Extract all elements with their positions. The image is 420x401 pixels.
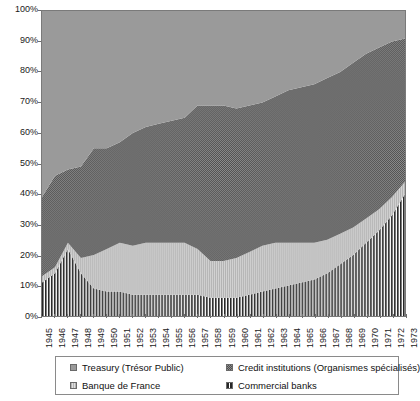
plot-area [41,10,406,317]
x-tick-label: 1953 [149,318,158,348]
x-tick-mark [289,314,290,318]
x-tick-mark [250,314,251,318]
x-tick-label: 1952 [136,318,145,348]
legend-item-commercial-banks: Commercial banks [226,377,317,394]
x-tick-mark [54,314,55,318]
x-tick-label: 1965 [306,318,315,348]
x-tick-mark [380,314,381,318]
chart-legend: Treasury (Trésor Public) Credit institut… [55,356,399,395]
x-tick-label: 1951 [123,318,132,348]
x-tick-label: 1964 [293,318,302,348]
x-tick-label: 1949 [97,318,106,348]
x-tick-mark [354,314,355,318]
x-tick-label: 1966 [319,318,328,348]
x-tick-mark [276,314,277,318]
x-tick-label: 1961 [254,318,263,348]
x-tick-label: 1954 [162,318,171,348]
x-tick-mark [41,314,42,318]
x-tick-mark [132,314,133,318]
legend-row-1: Treasury (Trésor Public) Credit institut… [56,359,398,376]
x-tick-label: 1955 [175,318,184,348]
y-tick-label: 100% [2,5,38,14]
x-tick-label: 1970 [371,318,380,348]
x-tick-label: 1948 [84,318,93,348]
legend-item-treasury: Treasury (Trésor Public) [70,359,184,376]
x-tick-label: 1962 [267,318,276,348]
y-axis: 0%10%20%30%40%50%60%70%80%90%100% [0,0,38,327]
x-tick-mark [367,314,368,318]
legend-row-2: Banque de France Commercial banks [56,377,398,394]
legend-label-treasury: Treasury (Trésor Public) [82,362,184,373]
legend-label-commercial-banks: Commercial banks [238,380,317,391]
y-tick-label: 60% [2,128,38,137]
x-tick-label: 1950 [110,318,119,348]
x-tick-label: 1959 [228,318,237,348]
y-tick-label: 0% [2,312,38,321]
y-tick-label: 50% [2,159,38,168]
x-tick-label: 1972 [397,318,406,348]
x-tick-mark [184,314,185,318]
x-tick-mark [171,314,172,318]
legend-swatch-banque-de-france [70,382,77,389]
x-tick-label: 1967 [332,318,341,348]
x-tick-mark [80,314,81,318]
legend-label-credit-institutions: Credit institutions (Organismes spéciali… [238,362,420,373]
y-tick-label: 70% [2,97,38,106]
x-axis: 1945194619471948194919501951195219531954… [41,318,407,352]
x-tick-mark [237,314,238,318]
x-tick-mark [145,314,146,318]
x-tick-mark [302,314,303,318]
x-tick-label: 1945 [45,318,54,348]
y-tick-label: 20% [2,251,38,260]
x-tick-label: 1969 [358,318,367,348]
legend-item-banque-de-france: Banque de France [70,377,160,394]
x-tick-mark [67,314,68,318]
x-tick-label: 1947 [71,318,80,348]
legend-swatch-treasury [70,364,77,371]
x-tick-mark [263,314,264,318]
legend-item-credit-institutions: Credit institutions (Organismes spéciali… [226,359,420,376]
y-tick-label: 80% [2,66,38,75]
x-tick-mark [224,314,225,318]
x-tick-label: 1958 [214,318,223,348]
y-tick-label: 40% [2,189,38,198]
x-tick-label: 1946 [58,318,67,348]
x-tick-mark [328,314,329,318]
legend-swatch-credit-institutions [226,364,233,371]
x-tick-mark [93,314,94,318]
x-tick-label: 1971 [384,318,393,348]
x-tick-mark [393,314,394,318]
x-tick-mark [106,314,107,318]
x-tick-mark [315,314,316,318]
x-tick-label: 1956 [188,318,197,348]
y-tick-label: 10% [2,281,38,290]
x-tick-label: 1973 [410,318,419,348]
x-tick-mark [197,314,198,318]
y-tick-label: 30% [2,220,38,229]
x-tick-label: 1960 [241,318,250,348]
x-tick-mark [119,314,120,318]
x-tick-mark [158,314,159,318]
stacked-area-svg [42,11,405,316]
x-tick-mark [406,314,407,318]
x-tick-mark [210,314,211,318]
y-tick-label: 90% [2,36,38,45]
x-tick-label: 1957 [201,318,210,348]
x-tick-label: 1968 [345,318,354,348]
legend-label-banque-de-france: Banque de France [82,380,160,391]
x-tick-mark [341,314,342,318]
x-tick-label: 1963 [280,318,289,348]
legend-swatch-commercial-banks [226,382,233,389]
